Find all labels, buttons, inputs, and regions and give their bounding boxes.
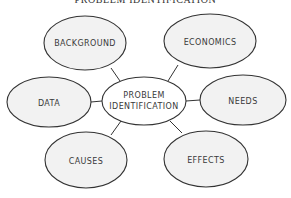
- node-causes-label: CAUSES: [69, 157, 104, 166]
- connector-needs: [186, 100, 200, 101]
- node-needs[interactable]: NEEDS: [200, 75, 286, 125]
- center-label-line2: IDENTIFICATION: [109, 102, 178, 111]
- node-center[interactable]: PROBLEM IDENTIFICATION: [102, 77, 186, 125]
- node-economics-label: ECONOMICS: [184, 38, 237, 47]
- mind-map: BACKGROUND ECONOMICS DATA PROBLEM IDENTI…: [0, 0, 291, 198]
- node-data[interactable]: DATA: [7, 77, 91, 127]
- center-label-line1: PROBLEM: [123, 91, 164, 100]
- node-background-label: BACKGROUND: [54, 39, 116, 48]
- node-data-label: DATA: [38, 99, 60, 108]
- node-effects-label: EFFECTS: [187, 156, 225, 165]
- connector-data: [91, 101, 102, 102]
- node-effects[interactable]: EFFECTS: [164, 131, 248, 187]
- node-background[interactable]: BACKGROUND: [44, 16, 126, 70]
- node-causes[interactable]: CAUSES: [45, 132, 127, 188]
- node-needs-label: NEEDS: [228, 97, 257, 106]
- connector-causes: [111, 121, 121, 135]
- connector-economics: [168, 65, 178, 81]
- connector-effects: [170, 121, 182, 133]
- node-economics[interactable]: ECONOMICS: [164, 14, 256, 68]
- connector-background: [111, 68, 120, 81]
